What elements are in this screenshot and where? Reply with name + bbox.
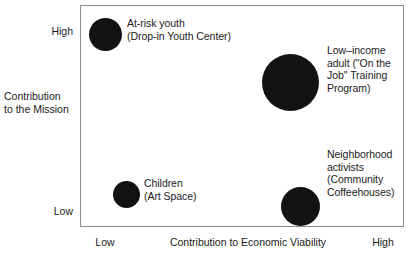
x-axis-tick-low: Low [82,236,128,249]
x-axis-title: Contribution to Economic Viability [128,236,368,249]
label-low-income-adult: Low–income adult ("On the Job" Training … [327,44,411,94]
bubble-at-risk-youth[interactable] [89,18,122,51]
bubble-neighborhood-activists[interactable] [281,187,320,226]
bubble-chart: At-risk youth (Drop-in Youth Center) Low… [0,0,413,269]
label-at-risk-youth: At-risk youth (Drop-in Youth Center) [127,17,262,42]
bubble-children[interactable] [113,181,140,208]
x-axis-tick-high: High [360,236,406,249]
y-axis-title: Contribution to the Mission [4,90,80,116]
y-axis-tick-high: High [18,25,73,38]
bubble-low-income-adult[interactable] [262,54,319,111]
label-neighborhood-activists: Neighborhood activists (Community Coffee… [327,148,413,198]
y-axis-tick-low: Low [18,205,73,218]
label-children: Children (Art Space) [144,177,244,202]
